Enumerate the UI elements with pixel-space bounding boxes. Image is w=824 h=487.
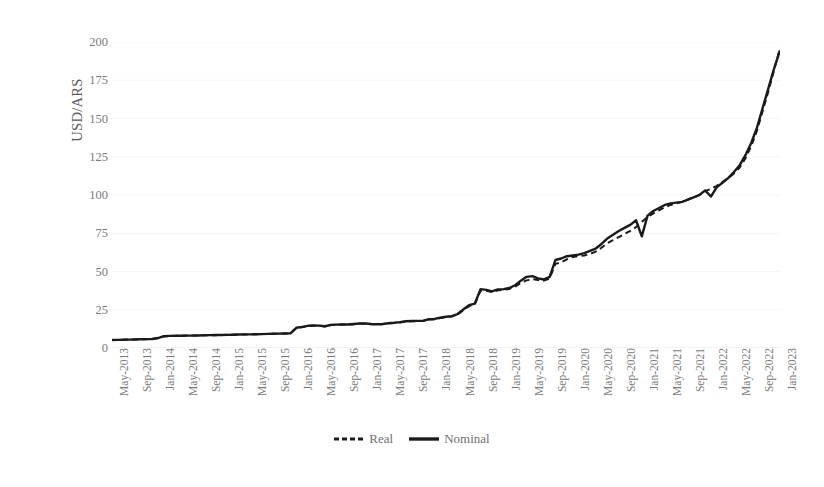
- x-tick-label: Sep-2016: [348, 348, 360, 418]
- legend-swatch-solid-icon: [409, 434, 439, 444]
- y-tick-label: 25: [62, 304, 108, 316]
- x-tick-label: Sep-2021: [694, 348, 706, 418]
- x-tick-label: May-2022: [740, 348, 752, 418]
- x-tick-label: Jan-2023: [786, 348, 798, 418]
- plot-svg: [112, 42, 780, 348]
- y-tick-label: 175: [62, 74, 108, 86]
- chart-legend: RealNominal: [0, 432, 824, 446]
- x-tick-label: Sep-2022: [763, 348, 775, 418]
- y-tick-label: 50: [62, 266, 108, 278]
- x-tick-label: Jan-2019: [510, 348, 522, 418]
- y-tick-label: 125: [62, 151, 108, 163]
- x-tick-label: Sep-2017: [417, 348, 429, 418]
- legend-item-nominal[interactable]: Nominal: [409, 432, 490, 446]
- x-tick-label: May-2021: [671, 348, 683, 418]
- legend-item-real[interactable]: Real: [334, 432, 393, 446]
- x-axis-tick-labels: May-2013Sep-2013Jan-2014May-2014Sep-2014…: [112, 352, 780, 422]
- y-axis-tick-labels: 0255075100125150175200: [62, 0, 108, 487]
- legend-label: Real: [369, 432, 393, 446]
- legend-swatch-dashed-icon: [334, 434, 364, 444]
- y-tick-label: 75: [62, 227, 108, 239]
- x-tick-label: Jan-2015: [233, 348, 245, 418]
- x-tick-label: May-2016: [325, 348, 337, 418]
- x-tick-label: Jan-2021: [648, 348, 660, 418]
- x-tick-label: May-2017: [394, 348, 406, 418]
- x-tick-label: Sep-2019: [556, 348, 568, 418]
- usd-ars-line-chart: USD/ARS 0255075100125150175200 May-2013S…: [0, 0, 824, 487]
- x-tick-label: Jan-2017: [371, 348, 383, 418]
- series-lines: [112, 48, 780, 340]
- x-tick-label: May-2013: [118, 348, 130, 418]
- x-tick-label: Sep-2014: [210, 348, 222, 418]
- x-tick-label: May-2018: [464, 348, 476, 418]
- x-tick-label: Jan-2016: [302, 348, 314, 418]
- y-tick-label: 100: [62, 189, 108, 201]
- y-tick-label: 150: [62, 113, 108, 125]
- x-tick-label: May-2019: [533, 348, 545, 418]
- series-line-real: [112, 48, 780, 340]
- x-tick-label: May-2020: [602, 348, 614, 418]
- plot-area: [112, 42, 780, 348]
- x-tick-label: Sep-2020: [625, 348, 637, 418]
- x-tick-label: Sep-2015: [279, 348, 291, 418]
- x-tick-label: Jan-2022: [717, 348, 729, 418]
- x-tick-label: Sep-2013: [141, 348, 153, 418]
- x-tick-label: May-2015: [256, 348, 268, 418]
- legend-label: Nominal: [444, 432, 490, 446]
- x-tick-label: Jan-2020: [579, 348, 591, 418]
- y-tick-label: 0: [62, 342, 108, 354]
- y-tick-label: 200: [62, 36, 108, 48]
- gridlines: [112, 42, 780, 348]
- x-tick-label: May-2014: [187, 348, 199, 418]
- x-tick-label: Sep-2018: [487, 348, 499, 418]
- x-tick-label: Jan-2018: [440, 348, 452, 418]
- x-tick-label: Jan-2014: [164, 348, 176, 418]
